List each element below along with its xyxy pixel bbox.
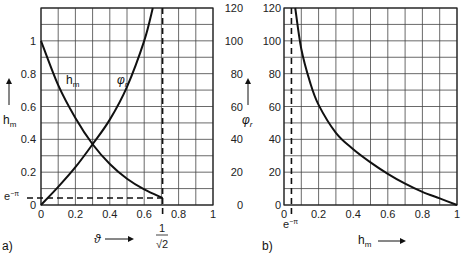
y-tick-label: 40 [269,133,281,145]
panel-a-y2-arrow-icon [245,78,251,105]
x-tick-label: 1 [210,208,216,220]
panel-b-xlabel: hm [358,233,372,249]
panel-b-label: b) [262,239,273,253]
y-left-tick-label: 1 [30,35,36,47]
e-minus-pi-label-a: e−π [4,190,19,202]
y-right-tick-label: 40 [231,133,243,145]
y-right-tick-label: 100 [225,35,243,47]
panel-a-y-arrow-icon [6,78,12,105]
y-right-tick-label: 120 [225,2,243,14]
y-right-tick-label: 60 [231,101,243,113]
panel-a-plot: 00.20.40.60.8100.20.40.60.81020406080100… [21,2,243,220]
panel-a-label: a) [2,239,13,253]
y-left-tick-label: 0.2 [21,166,36,178]
x-tick-label: 0.6 [137,208,152,220]
x-tick-label: 0.8 [415,208,430,220]
curve-label-hm: hm [66,73,80,89]
panel-a-ylabel-right: φr [242,113,253,129]
x-tick-label: 0.8 [171,208,186,220]
y-tick-label: 120 [263,2,281,14]
y-right-tick-label: 0 [237,199,243,211]
sqrt-numerator: 1 [159,222,165,234]
x-tick-label: 0.2 [68,208,83,220]
x-tick-label: 0.4 [346,208,361,220]
y-tick-label: 0 [275,199,281,211]
x-tick-label: 0 [38,208,44,220]
y-tick-label: 60 [269,101,281,113]
y-left-tick-label: 0.8 [21,68,36,80]
curve-label-phi: φr [117,73,128,89]
panel-a-ylabel-left: hm [3,113,17,129]
panel-b-plot: 00.20.40.60.81020406080100120 [263,2,460,220]
figure: 00.20.40.60.8100.20.40.60.81020406080100… [0,0,462,260]
y-right-tick-label: 80 [231,68,243,80]
x-tick-label: 0.2 [311,208,326,220]
x-tick-label: 0.6 [380,208,395,220]
y-left-tick-label: 0.4 [21,133,36,145]
y-tick-label: 100 [263,35,281,47]
y-right-tick-label: 20 [231,166,243,178]
sqrt-denominator: √2 [156,238,168,250]
y-left-tick-label: 0 [30,199,36,211]
y-tick-label: 80 [269,68,281,80]
x-tick-label: 1 [454,208,460,220]
panel-b-x-arrow-icon [378,238,406,244]
y-left-tick-label: 0.6 [21,101,36,113]
panel-a-x-arrow-icon [105,236,134,242]
y-tick-label: 20 [269,166,281,178]
x-tick-label: 0.4 [102,208,117,220]
e-minus-pi-label-b: e−π [283,218,298,230]
panel-a-xlabel: ϑ [94,232,101,246]
